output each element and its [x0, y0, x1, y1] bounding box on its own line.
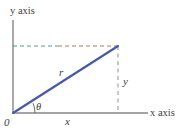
x-component-label: x [65, 116, 70, 127]
radius-ray [13, 46, 118, 113]
x-axis-label: x axis [150, 108, 175, 119]
angle-theta-label: θ [36, 102, 41, 113]
origin-label: 0 [4, 117, 10, 128]
y-component-label: y [123, 76, 128, 87]
y-axis-label: y axis [10, 6, 35, 17]
angle-arc [33, 103, 35, 113]
coordinate-diagram: y axis x axis 0 r y x θ [0, 0, 185, 138]
radius-label: r [59, 67, 63, 78]
